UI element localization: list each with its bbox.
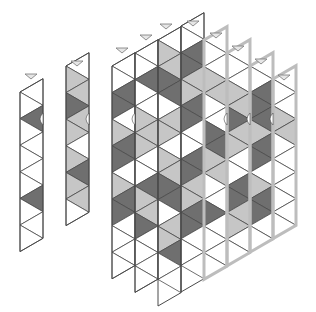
down-triangle-marker-icon [160, 24, 172, 29]
down-triangle-marker-icon [140, 35, 152, 40]
down-triangle-marker-icon [116, 48, 128, 53]
isometric-tiling-figure: Isometric cube tiling columns [0, 0, 316, 312]
diagram-canvas: Isometric cube tiling columns [0, 0, 316, 312]
down-triangle-marker-icon [25, 74, 37, 79]
